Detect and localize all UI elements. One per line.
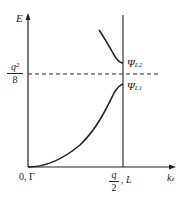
x-axis-label: kz (167, 173, 174, 183)
psi-symbol: Ψ (127, 57, 135, 69)
y-axis-arrow-icon (26, 13, 31, 20)
origin-label: 0, Γ (19, 172, 35, 182)
lower-band-curve (28, 84, 123, 167)
x-marker-suffix: , L (121, 175, 132, 185)
band-diagram (0, 0, 187, 200)
upper-band-curve (99, 30, 123, 63)
dashed-level-denominator: 8 (13, 74, 18, 85)
x-marker-label: q 2 (109, 170, 119, 193)
y-axis-label: E (16, 13, 23, 24)
x-axis-arrow-icon (169, 165, 176, 170)
x-axis-sub: z (171, 175, 174, 183)
x-marker-denominator: 2 (112, 182, 117, 193)
psi-symbol: Ψ (127, 80, 135, 92)
x-marker-numerator: q (112, 169, 117, 180)
branch-label-upper: ΨL2 (127, 58, 142, 69)
psi-subscript: L2 (135, 61, 142, 69)
dashed-level-label: q² 8 (7, 62, 23, 85)
psi-subscript: L1 (135, 84, 142, 92)
branch-label-lower: ΨL1 (127, 81, 142, 92)
dashed-level-numerator: q² (11, 61, 19, 72)
